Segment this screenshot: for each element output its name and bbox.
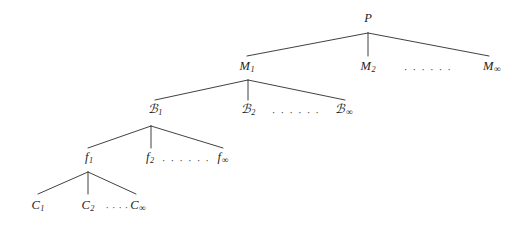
node-label-subscript: 2 xyxy=(371,65,375,74)
node-label-base: ℬ xyxy=(335,101,345,116)
tree-edge-f1-to-Cinf xyxy=(88,172,136,194)
node-label-subscript: ∞ xyxy=(346,107,353,117)
edge-layer xyxy=(0,0,517,227)
node-label-subscript: 2 xyxy=(90,204,94,213)
node-label-subscript: 1 xyxy=(89,156,93,165)
tree-edge-M1-to-Ainf xyxy=(248,80,345,100)
node-label-base: C xyxy=(32,198,40,212)
node-label-base: ℬ xyxy=(148,101,158,116)
node-label-subscript: 2 xyxy=(251,108,255,117)
node-label-base: P xyxy=(364,11,372,25)
tree-node-C2: C2 xyxy=(82,199,95,213)
tree-node-f2: f2 xyxy=(146,151,154,165)
node-label-base: M xyxy=(240,59,251,73)
tree-edge-P-to-M1 xyxy=(247,33,368,56)
tree-node-C1: C1 xyxy=(32,199,45,213)
ellipsis-level-M: · · · · · · xyxy=(404,63,452,75)
ellipsis-level-f: · · · · · · xyxy=(162,154,210,166)
node-label-subscript: ∞ xyxy=(139,203,146,213)
tree-edge-A1-to-finf xyxy=(151,126,223,148)
tree-node-P: P xyxy=(364,12,372,25)
node-label-subscript: 1 xyxy=(158,108,162,117)
ellipsis-level-C: · · · · xyxy=(106,202,129,213)
tree-node-Cinf: C∞ xyxy=(130,199,146,214)
tree-edge-P-to-Minf xyxy=(368,33,489,56)
tree-node-Ainf: ℬ∞ xyxy=(335,103,352,118)
tree-edge-f1-to-C1 xyxy=(38,172,88,194)
tree-edge-A1-to-f1 xyxy=(88,126,151,148)
tree-node-finf: f∞ xyxy=(218,151,229,166)
tree-diagram: PM1M2M∞· · · · · ·ℬ1ℬ2ℬ∞· · · · · ·f1f2f… xyxy=(0,0,517,227)
tree-node-A2: ℬ2 xyxy=(241,103,256,117)
node-label-subscript: ∞ xyxy=(222,155,229,165)
tree-node-Minf: M∞ xyxy=(483,60,501,75)
tree-edge-M1-to-A1 xyxy=(155,80,248,100)
node-label-subscript: 1 xyxy=(250,65,254,74)
tree-node-f1: f1 xyxy=(85,151,93,165)
node-label-subscript: ∞ xyxy=(494,64,501,74)
node-label-subscript: 2 xyxy=(150,156,154,165)
node-label-base: C xyxy=(130,198,138,212)
tree-node-M1: M1 xyxy=(240,60,255,74)
node-label-subscript: 1 xyxy=(40,204,44,213)
tree-node-A1: ℬ1 xyxy=(148,103,163,117)
ellipsis-level-A: · · · · · · xyxy=(272,106,320,118)
tree-node-M2: M2 xyxy=(361,60,376,74)
node-label-base: C xyxy=(82,198,90,212)
node-label-base: ℬ xyxy=(241,101,251,116)
node-label-base: M xyxy=(483,59,494,73)
node-label-base: M xyxy=(361,59,372,73)
